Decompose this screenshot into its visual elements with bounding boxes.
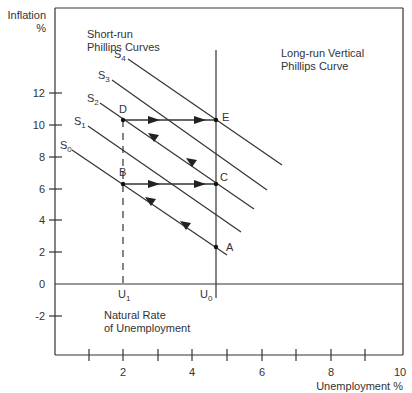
short-run-label-line2: Phillips Curves <box>87 41 160 53</box>
curve-labels: S0 S1 S2 S3 S4 <box>60 48 126 154</box>
x-tick-4: 4 <box>189 366 195 378</box>
point-e <box>214 118 218 122</box>
y-tick-6: 6 <box>39 183 45 195</box>
x-tick-2: 2 <box>120 366 126 378</box>
label-s3: S3 <box>98 69 110 84</box>
long-run-label-line1: Long-run Vertical <box>281 47 364 59</box>
adjustment-path <box>123 120 216 184</box>
y-axis-title-line1: Inflation <box>7 9 46 21</box>
label-s1: S1 <box>74 115 86 130</box>
u0-label: U0 <box>200 288 213 303</box>
y-axis-title-line2: % <box>36 22 46 34</box>
short-run-annotation: Short-run Phillips Curves <box>87 28 160 53</box>
label-s2: S2 <box>87 92 99 107</box>
point-label-b: B <box>119 166 126 178</box>
y-axis-tick-labels: 12 10 8 6 4 2 0 -2 <box>33 87 45 322</box>
long-run-label-line2: Phillips Curve <box>281 60 348 72</box>
y-tick-4: 4 <box>39 214 45 226</box>
y-tick-2: 2 <box>39 246 45 258</box>
short-run-label-line1: Short-run <box>87 28 133 40</box>
arrow-up-left-icon <box>180 221 191 230</box>
natural-rate-annotation: Natural Rate of Unemployment <box>104 309 190 334</box>
x-tick-10: 10 <box>394 366 406 378</box>
long-run-annotation: Long-run Vertical Phillips Curve <box>281 47 364 72</box>
arrow-up-left-icon <box>145 197 156 206</box>
plot-frame <box>55 8 403 355</box>
arrow-right-icon <box>194 116 206 124</box>
x-tick-8: 8 <box>328 366 334 378</box>
x-axis-title: Unemployment % <box>316 380 403 392</box>
x-tick-6: 6 <box>259 366 265 378</box>
y-tick-8: 8 <box>39 151 45 163</box>
point-c <box>214 182 218 186</box>
curve-s3 <box>112 80 267 190</box>
phillips-curve-chart: 12 10 8 6 4 2 0 -2 2 4 6 8 10 Inflation … <box>0 0 412 393</box>
point-a <box>214 245 218 249</box>
y-tick-10: 10 <box>33 119 45 131</box>
y-tick-12: 12 <box>33 87 45 99</box>
point-label-d: D <box>119 103 127 115</box>
u1-label: U1 <box>118 288 131 303</box>
natural-rate-label-line1: Natural Rate <box>104 309 166 321</box>
natural-rate-label-line2: of Unemployment <box>104 322 190 334</box>
point-label-a: A <box>226 241 234 253</box>
point-label-e: E <box>222 111 229 123</box>
u-labels: U1 U0 <box>118 288 213 303</box>
curve-s1 <box>88 126 241 232</box>
arrow-right-icon <box>148 180 160 188</box>
x-axis-tick-labels: 2 4 6 8 10 <box>120 366 406 378</box>
point-label-c: C <box>220 171 228 183</box>
arrowheads <box>145 116 206 230</box>
label-s0: S0 <box>60 139 72 154</box>
arrow-right-icon <box>194 180 206 188</box>
arrow-right-icon <box>148 116 160 124</box>
curve-s4 <box>128 59 282 165</box>
y-tick-minus-2: -2 <box>35 310 45 322</box>
short-run-curves <box>72 59 282 255</box>
point-d <box>121 118 125 122</box>
arrow-up-left-icon <box>186 158 197 167</box>
point-b <box>121 182 125 186</box>
y-tick-0: 0 <box>39 278 45 290</box>
